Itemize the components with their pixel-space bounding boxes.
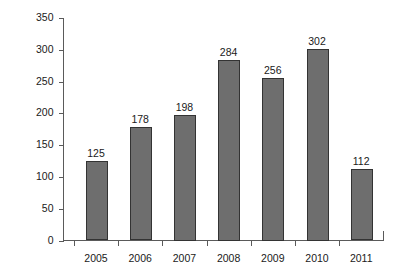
bar — [87, 162, 108, 240]
bar-chart: 050100150200250300350 125178198284256302… — [0, 0, 400, 276]
bar-value-label: 302 — [308, 35, 326, 47]
x-axis-tick-label: 2005 — [84, 252, 108, 264]
y-axis-tick-label: 50 — [42, 202, 54, 214]
x-axis-tick-label: 2010 — [305, 252, 329, 264]
y-axis-tick-label: 0 — [48, 234, 54, 246]
bar — [308, 50, 329, 241]
bar-value-label: 125 — [87, 147, 105, 159]
y-axis-tick-label: 150 — [36, 138, 54, 150]
chart-canvas: 050100150200250300350 125178198284256302… — [0, 0, 400, 276]
x-axis-tick-label: 2008 — [217, 252, 241, 264]
y-axis-tick-label: 250 — [36, 75, 54, 87]
bar-value-label: 256 — [264, 64, 282, 76]
y-axis-tick-label: 300 — [36, 43, 54, 55]
x-axis-tick-label: 2009 — [261, 252, 285, 264]
bar — [263, 79, 284, 241]
bar — [175, 116, 196, 241]
x-axis-tick-label: 2007 — [173, 252, 197, 264]
bar — [352, 170, 373, 240]
bar-value-label: 198 — [176, 101, 194, 113]
chart-background — [0, 0, 400, 276]
bar-value-label: 178 — [131, 113, 149, 125]
x-axis-tick-label: 2006 — [129, 252, 153, 264]
bar-value-label: 112 — [353, 155, 370, 167]
x-axis-tick-label: 2011 — [350, 252, 373, 264]
y-axis-tick-label: 200 — [36, 106, 54, 118]
y-axis-tick-label: 350 — [36, 11, 54, 23]
bar — [219, 61, 240, 241]
bar — [131, 128, 152, 240]
bar-value-label: 284 — [220, 46, 238, 58]
y-axis-tick-label: 100 — [36, 170, 54, 182]
